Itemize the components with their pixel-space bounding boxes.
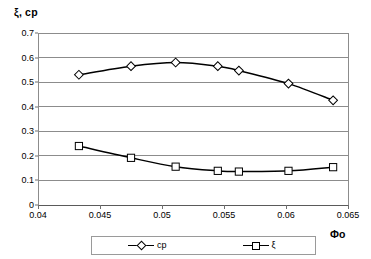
- x-tick-label: 0.04: [29, 211, 47, 220]
- x-tick-mark: [38, 205, 39, 209]
- x-tick-label: 0.065: [337, 211, 360, 220]
- y-tick-label: 0.2: [21, 151, 34, 160]
- x-tick-label: 0.06: [277, 211, 295, 220]
- data-point-diamond: [171, 58, 180, 67]
- plot-area: 00.10.20.30.40.50.60.7 0.040.0450.050.05…: [38, 33, 348, 205]
- x-axis-title: Фо: [330, 228, 345, 240]
- data-point-square: [330, 164, 337, 171]
- y-tick-label: 0: [29, 201, 34, 210]
- square-marker-icon: [243, 240, 269, 251]
- data-point-square: [235, 168, 242, 175]
- y-tick-label: 0.4: [21, 102, 34, 111]
- x-tick-label: 0.055: [213, 211, 236, 220]
- x-tick-label: 0.045: [89, 211, 112, 220]
- y-tick-label: 0.3: [21, 127, 34, 136]
- data-point-diamond: [213, 62, 222, 71]
- y-axis-title: ξ, ср: [14, 6, 38, 18]
- x-tick-mark: [348, 205, 349, 209]
- series-line: [79, 146, 333, 172]
- legend-label: ср: [157, 241, 167, 250]
- legend-label: ξ: [272, 241, 276, 250]
- data-point-diamond: [284, 79, 293, 88]
- chart-figure: ξ, ср Фо 00.10.20.30.40.50.60.7 0.040.04…: [0, 0, 371, 259]
- x-tick-label: 0.05: [153, 211, 171, 220]
- data-series-layer: [38, 33, 348, 205]
- y-tick-label: 0.6: [21, 53, 34, 62]
- x-tick-mark: [100, 205, 101, 209]
- data-point-diamond: [75, 70, 84, 79]
- x-tick-mark: [286, 205, 287, 209]
- data-point-square: [285, 167, 292, 174]
- data-point-diamond: [329, 96, 338, 105]
- data-point-diamond: [127, 62, 136, 71]
- series-line: [79, 62, 333, 100]
- x-tick-mark: [224, 205, 225, 209]
- data-point-square: [172, 163, 179, 170]
- legend: ср ξ: [91, 236, 316, 255]
- data-point-square: [75, 142, 82, 149]
- diamond-marker-icon: [128, 240, 154, 251]
- y-tick-label: 0.1: [21, 176, 34, 185]
- y-tick-label: 0.5: [21, 78, 34, 87]
- x-tick-mark: [162, 205, 163, 209]
- data-point-square: [127, 154, 134, 161]
- data-point-square: [214, 167, 221, 174]
- legend-item-cp[interactable]: ср: [128, 240, 167, 251]
- data-point-diamond: [234, 66, 243, 75]
- y-tick-label: 0.7: [21, 29, 34, 38]
- legend-item-xi[interactable]: ξ: [243, 240, 276, 251]
